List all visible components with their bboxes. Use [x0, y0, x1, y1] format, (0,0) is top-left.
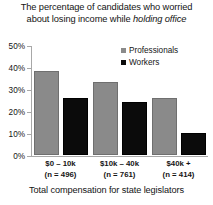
y-axis-line: [31, 46, 32, 157]
category-sample-size: (n = 414): [149, 170, 208, 181]
y-axis-tick-label: 30%: [9, 86, 25, 95]
y-axis-tick-label: 10%: [9, 130, 25, 139]
y-axis-tick-label: 50%: [9, 42, 25, 51]
bar-group: [34, 45, 88, 155]
y-axis-tick-mark: [27, 134, 31, 135]
bar-workers[interactable]: [181, 133, 206, 155]
x-axis-title: Total compensation for state legislators: [0, 185, 213, 195]
chart-title-line-1: The percentage of candidates who worried: [21, 2, 193, 12]
category-name: $40k +: [166, 159, 190, 168]
bar-group: [93, 45, 147, 155]
y-axis-tick-mark: [27, 46, 31, 47]
x-axis-category-labels: $0 – 10k(n = 496)$10k – 40k(n = 761)$40k…: [31, 159, 208, 183]
category-sample-size: (n = 761): [90, 170, 149, 181]
y-axis-tick-mark: [27, 112, 31, 113]
x-axis-category-label: $40k +(n = 414): [149, 159, 208, 180]
bar-workers[interactable]: [63, 98, 88, 155]
bar-professionals[interactable]: [93, 82, 118, 155]
y-axis-tick-label: 40%: [9, 64, 25, 73]
chart-title: The percentage of candidates who worried…: [4, 2, 209, 25]
y-axis-tick-label: 0%: [13, 152, 25, 161]
x-axis-line: [31, 156, 208, 157]
category-sample-size: (n = 496): [31, 170, 90, 181]
y-axis-tick-mark: [27, 156, 31, 157]
bar-professionals[interactable]: [152, 98, 177, 155]
bar-group: [152, 45, 206, 155]
y-axis-tick-mark: [27, 90, 31, 91]
y-axis-tick-mark: [27, 68, 31, 69]
plot-area: 0%10%20%30%40%50%: [31, 46, 208, 156]
bar-workers[interactable]: [122, 102, 147, 155]
bar-professionals[interactable]: [34, 71, 59, 155]
chart-title-line-2-plain: about losing income while: [27, 14, 133, 24]
chart-title-line-2-italic: holding office: [133, 14, 186, 24]
y-axis-tick-label: 20%: [9, 108, 25, 117]
x-axis-category-label: $0 – 10k(n = 496): [31, 159, 90, 180]
x-axis-category-label: $10k – 40k(n = 761): [90, 159, 149, 180]
bar-chart-figure: The percentage of candidates who worried…: [0, 0, 213, 205]
category-name: $0 – 10k: [45, 159, 75, 168]
category-name: $10k – 40k: [100, 159, 139, 168]
